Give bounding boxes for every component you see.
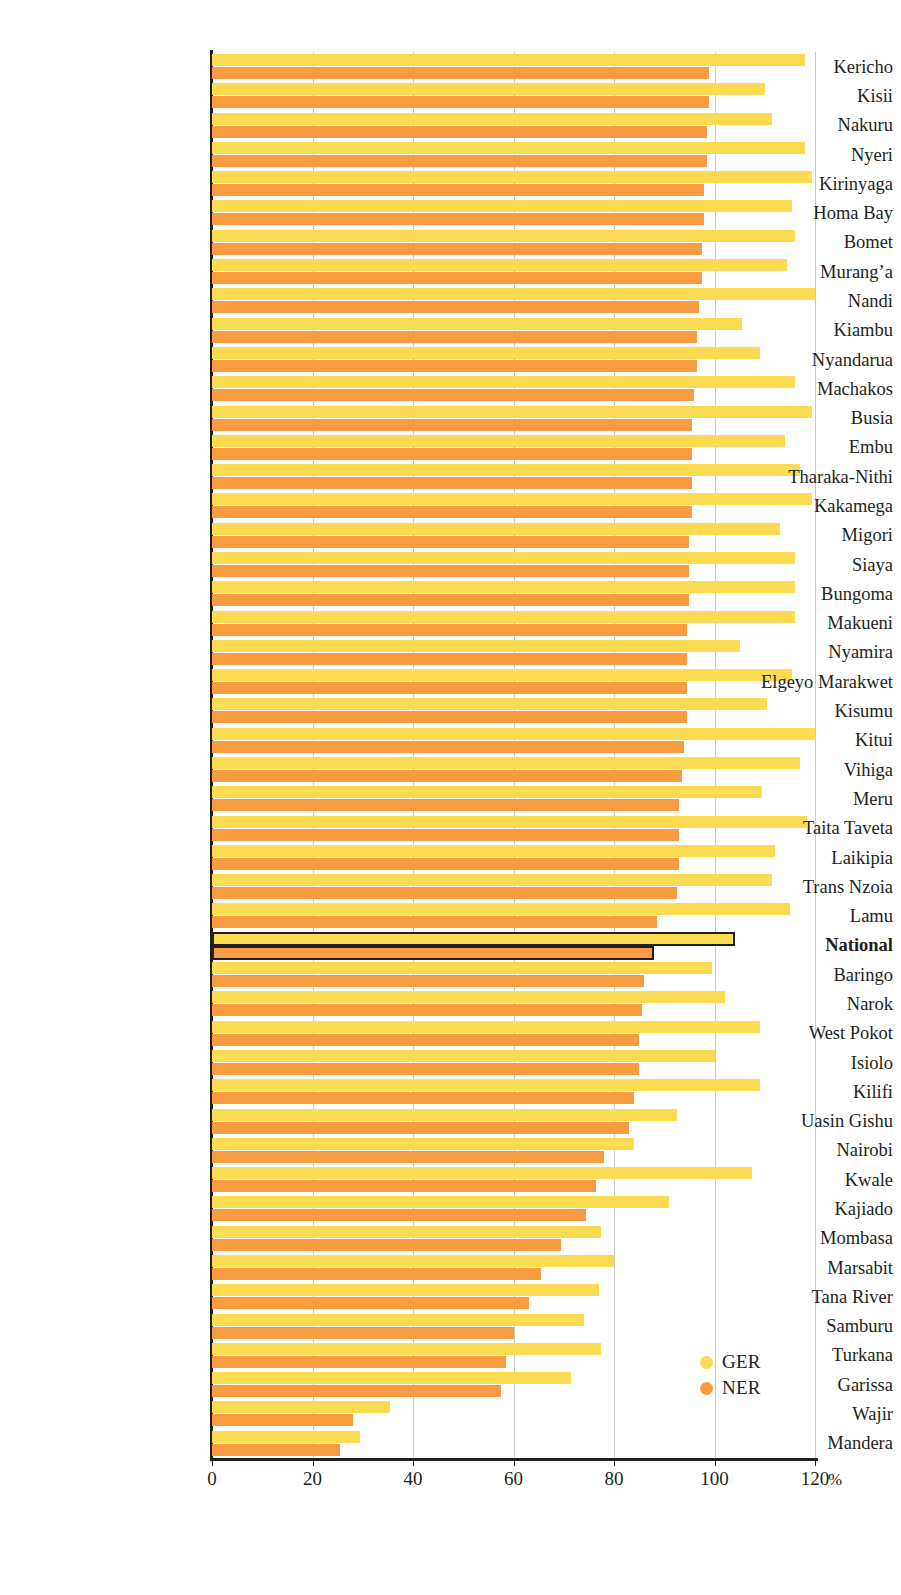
y-axis-label-nyandarua: Nyandarua <box>683 351 893 370</box>
bar-ner <box>212 243 702 255</box>
y-axis-label-machakos: Machakos <box>683 380 893 399</box>
bar-ner <box>212 389 694 401</box>
bar-ner <box>212 96 709 108</box>
x-tick-60 <box>514 1461 515 1466</box>
bar-ner <box>212 1356 506 1368</box>
chart-page: KerichoKisiiNakuruNyeriKirinyagaHoma Bay… <box>0 0 901 1595</box>
legend-item-ner[interactable]: NER <box>700 1375 761 1401</box>
y-axis-label-nandi: Nandi <box>683 292 893 311</box>
y-axis-label-tharaka-nithi: Tharaka-Nithi <box>683 468 893 487</box>
y-axis-label-kisumu: Kisumu <box>683 702 893 721</box>
bar-ger <box>212 932 735 946</box>
y-axis-label-national: National <box>683 936 893 955</box>
y-axis-label-samburu: Samburu <box>683 1317 893 1336</box>
x-tick-label-20: 20 <box>283 1468 343 1490</box>
bar-ner <box>212 887 677 899</box>
x-tick-label-60: 60 <box>484 1468 544 1490</box>
y-axis-label-meru: Meru <box>683 790 893 809</box>
bar-ger <box>212 347 760 359</box>
bar-ner <box>212 799 679 811</box>
y-axis-label-tana-river: Tana River <box>683 1288 893 1307</box>
bar-ner <box>212 301 699 313</box>
bar-ner <box>212 448 692 460</box>
bar-ger <box>212 1226 601 1238</box>
bar-ner <box>212 506 692 518</box>
bar-ger <box>212 786 762 798</box>
y-axis-label-migori: Migori <box>683 526 893 545</box>
bar-ner <box>212 1180 596 1192</box>
y-axis-label-nyeri: Nyeri <box>683 146 893 165</box>
y-axis-label-kirinyaga: Kirinyaga <box>683 175 893 194</box>
bar-ner <box>212 419 692 431</box>
bar-ner <box>212 975 644 987</box>
y-axis-label-nyamira: Nyamira <box>683 643 893 662</box>
bar-ner <box>212 829 679 841</box>
bar-ner <box>212 1385 501 1397</box>
bar-ner <box>212 858 679 870</box>
y-axis-label-west-pokot: West Pokot <box>683 1024 893 1043</box>
bar-ner <box>212 1268 541 1280</box>
y-axis-label-isiolo: Isiolo <box>683 1054 893 1073</box>
y-axis-label-uasin-gishu: Uasin Gishu <box>683 1112 893 1131</box>
legend-swatch-ger <box>700 1356 713 1369</box>
bar-ner <box>212 1209 586 1221</box>
y-axis-label-embu: Embu <box>683 438 893 457</box>
x-tick-100 <box>715 1461 716 1466</box>
bar-ner <box>212 272 702 284</box>
bar-ger <box>212 1401 390 1413</box>
bar-ner <box>212 916 657 928</box>
bar-ger <box>212 318 742 330</box>
bar-ger <box>212 1431 360 1443</box>
bar-ner <box>212 155 707 167</box>
x-tick-40 <box>413 1461 414 1466</box>
bar-ner <box>212 565 689 577</box>
bar-ger <box>212 640 740 652</box>
bar-ner <box>212 1092 634 1104</box>
x-tick-label-0: 0 <box>182 1468 242 1490</box>
bar-ner <box>212 67 709 79</box>
bar-ner <box>212 1239 561 1251</box>
bar-ger <box>212 1021 760 1033</box>
bar-ner <box>212 946 654 960</box>
y-axis-label-elgeyo-marakwet: Elgeyo Marakwet <box>683 673 893 692</box>
bar-ner <box>212 1444 340 1456</box>
x-tick-20 <box>313 1461 314 1466</box>
x-tick-label-100: 100 <box>685 1468 745 1490</box>
bar-ger <box>212 1343 601 1355</box>
legend-label-ger: GER <box>722 1351 761 1373</box>
x-tick-80 <box>614 1461 615 1466</box>
y-axis-label-bomet: Bomet <box>683 233 893 252</box>
bar-ger <box>212 962 712 974</box>
y-axis-label-trans-nzoia: Trans Nzoia <box>683 878 893 897</box>
bar-ner <box>212 1122 629 1134</box>
bar-ger <box>212 1167 752 1179</box>
y-axis-label-murang-a: Murang’a <box>683 263 893 282</box>
legend-item-ger[interactable]: GER <box>700 1349 761 1375</box>
bar-ger <box>212 1372 571 1384</box>
bar-ner <box>212 682 687 694</box>
y-axis-label-kilifi: Kilifi <box>683 1083 893 1102</box>
y-axis-label-kitui: Kitui <box>683 731 893 750</box>
y-axis-label-baringo: Baringo <box>683 966 893 985</box>
y-axis-label-lamu: Lamu <box>683 907 893 926</box>
bar-ger <box>212 1284 599 1296</box>
y-axis-label-laikipia: Laikipia <box>683 849 893 868</box>
y-axis-label-siaya: Siaya <box>683 556 893 575</box>
y-axis-label-kisii: Kisii <box>683 87 893 106</box>
bar-ner <box>212 331 697 343</box>
bar-ger <box>212 1079 760 1091</box>
bar-ger <box>212 1050 715 1062</box>
bar-ner <box>212 1063 639 1075</box>
bar-ner <box>212 1414 353 1426</box>
y-axis-label-vihiga: Vihiga <box>683 761 893 780</box>
y-axis-label-mombasa: Mombasa <box>683 1229 893 1248</box>
bar-ner <box>212 653 687 665</box>
bar-ner <box>212 1327 514 1339</box>
bar-ner <box>212 477 692 489</box>
legend: GER NER <box>700 1349 761 1401</box>
bar-ner <box>212 594 689 606</box>
y-axis-label-nairobi: Nairobi <box>683 1141 893 1160</box>
y-axis-label-kiambu: Kiambu <box>683 321 893 340</box>
y-axis-label-makueni: Makueni <box>683 614 893 633</box>
x-tick-0 <box>212 1461 213 1466</box>
